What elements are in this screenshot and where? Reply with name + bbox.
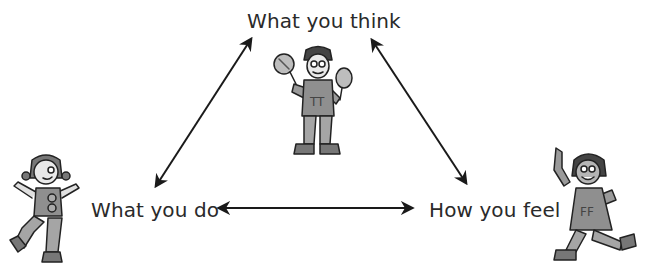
feeler-character-illustration: FF [548,146,648,270]
label-what-you-think: What you think [247,10,401,32]
arrow-think-feel [372,40,466,183]
label-what-you-do: What you do [91,199,219,221]
arrow-do-think [156,39,251,186]
cbt-triangle-diagram: What you think What you do How you feel … [0,0,653,276]
doer-character-illustration [4,148,84,268]
svg-text:TT: TT [309,95,325,109]
svg-text:FF: FF [580,205,594,219]
thinker-character-illustration: TT [266,44,366,164]
label-how-you-feel: How you feel [429,199,561,221]
